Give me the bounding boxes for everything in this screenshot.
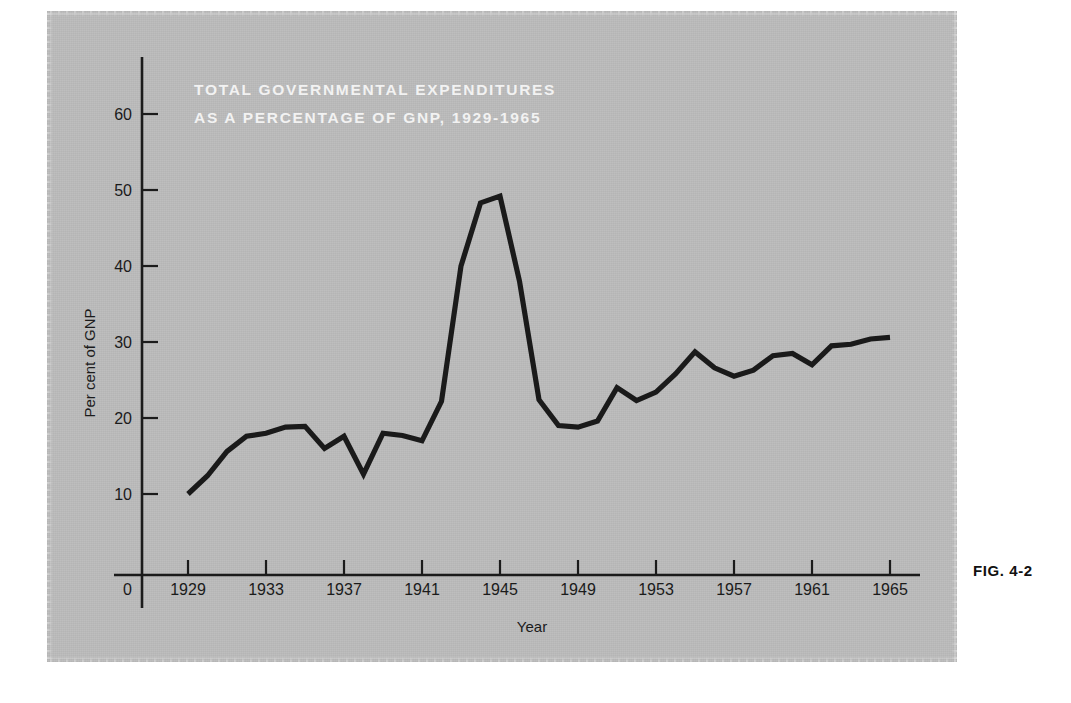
y-axis-title: Per cent of GNP bbox=[81, 308, 98, 417]
figure-number-caption: FIG. 4-2 bbox=[973, 562, 1033, 579]
chart-title-line-1: TOTAL GOVERNMENTAL EXPENDITURES bbox=[194, 81, 556, 98]
y-tick-label-40: 40 bbox=[114, 258, 132, 275]
y-tick-label-50: 50 bbox=[114, 182, 132, 199]
x-tick-label-1937: 1937 bbox=[326, 581, 362, 598]
chart-title-line-2: AS A PERCENTAGE OF GNP, 1929-1965 bbox=[194, 109, 541, 126]
x-tick-label-1953: 1953 bbox=[638, 581, 674, 598]
y-tick-label-60: 60 bbox=[114, 106, 132, 123]
y-tick-label-10: 10 bbox=[114, 486, 132, 503]
origin-label: 0 bbox=[123, 581, 132, 598]
x-axis-ticks bbox=[188, 560, 890, 575]
x-tick-label-1957: 1957 bbox=[716, 581, 752, 598]
y-tick-label-30: 30 bbox=[114, 334, 132, 351]
data-series-line bbox=[188, 196, 890, 494]
x-axis-title: Year bbox=[517, 618, 547, 635]
x-tick-label-1965: 1965 bbox=[872, 581, 908, 598]
chart-canvas: TOTAL GOVERNMENTAL EXPENDITURES AS A PER… bbox=[0, 0, 1071, 703]
x-tick-label-1949: 1949 bbox=[560, 581, 596, 598]
y-axis-ticks bbox=[142, 114, 158, 494]
x-tick-label-1961: 1961 bbox=[794, 581, 830, 598]
x-tick-label-1929: 1929 bbox=[170, 581, 206, 598]
x-tick-label-1945: 1945 bbox=[482, 581, 518, 598]
x-tick-label-1941: 1941 bbox=[404, 581, 440, 598]
x-tick-label-1933: 1933 bbox=[248, 581, 284, 598]
y-tick-label-20: 20 bbox=[114, 410, 132, 427]
